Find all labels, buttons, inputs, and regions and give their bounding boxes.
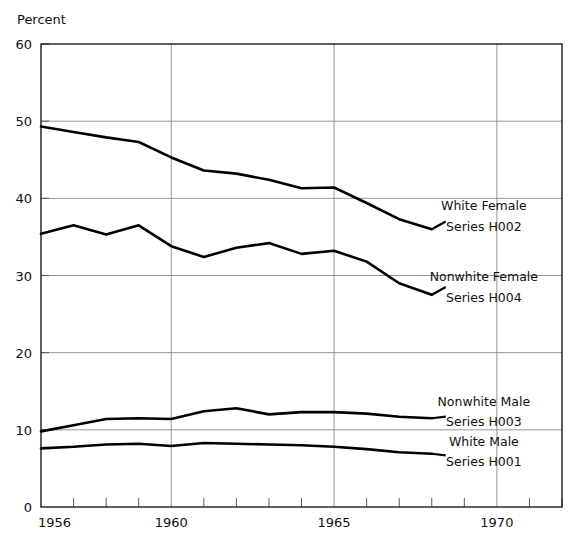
y-tick-label-30: 30 xyxy=(15,269,32,284)
x-axis-tickmarks xyxy=(74,498,562,507)
chart-container: Percent 6050403020100 1956196019651970 W… xyxy=(0,0,576,533)
annotation-5: Series H003 xyxy=(446,414,522,429)
annotation-7: Series H001 xyxy=(446,454,522,469)
y-tick-label-20: 20 xyxy=(15,346,32,361)
series-line-series-h001 xyxy=(41,443,432,454)
leader-series-h003 xyxy=(432,417,446,419)
y-tick-label-40: 40 xyxy=(15,191,32,206)
leader-series-h002 xyxy=(432,221,446,229)
annotation-3: Series H004 xyxy=(446,290,522,305)
series-leader-lines xyxy=(432,221,446,455)
series-line-series-h004 xyxy=(41,225,432,294)
series-line-series-h002 xyxy=(41,127,432,230)
annotation-6: White Male xyxy=(449,434,519,449)
series-annotations: White FemaleSeries H002Nonwhite FemaleSe… xyxy=(430,198,539,469)
annotation-4: Nonwhite Male xyxy=(437,394,530,409)
x-tick-label-1965: 1965 xyxy=(318,515,351,530)
series-line-series-h003 xyxy=(41,408,432,431)
y-axis-title: Percent xyxy=(17,12,66,27)
y-tick-label-60: 60 xyxy=(15,37,32,52)
x-axis-tick-labels: 1956196019651970 xyxy=(38,515,513,530)
y-axis-tick-labels: 6050403020100 xyxy=(15,37,32,515)
x-tick-label-1970: 1970 xyxy=(480,515,513,530)
y-axis-tickmarks xyxy=(41,44,49,430)
annotation-2: Nonwhite Female xyxy=(430,269,539,284)
y-tick-label-0: 0 xyxy=(24,500,32,515)
y-tick-label-50: 50 xyxy=(15,114,32,129)
y-tick-label-10: 10 xyxy=(15,423,32,438)
x-tick-label-1956: 1956 xyxy=(38,515,71,530)
annotation-0: White Female xyxy=(441,198,527,213)
x-tick-label-1960: 1960 xyxy=(155,515,188,530)
line-chart: Percent 6050403020100 1956196019651970 W… xyxy=(0,0,576,533)
series-lines xyxy=(41,127,432,454)
leader-series-h001 xyxy=(432,454,446,456)
annotation-1: Series H002 xyxy=(446,219,522,234)
leader-series-h004 xyxy=(432,287,446,295)
